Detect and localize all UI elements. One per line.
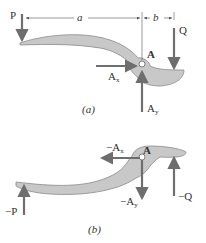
label-b: b: [153, 11, 159, 23]
lever-diagram: P a b Q A Ax Ay (a) −P −Q A −Ax −Ay (b): [0, 0, 206, 243]
label-Q: Q: [179, 24, 187, 36]
label-P: P: [10, 9, 16, 21]
label-negQ: −Q: [178, 190, 192, 202]
caption-a: (a): [82, 103, 95, 116]
figure-b: −P −Q A −Ax −Ay (b): [5, 141, 192, 236]
label-negP: −P: [5, 205, 17, 217]
lever-body-a: [20, 35, 184, 86]
label-Ay: Ay: [147, 102, 159, 116]
label-negAx: −Ax: [106, 141, 124, 155]
label-A: A: [147, 48, 155, 60]
label-negAy: −Ay: [120, 195, 138, 209]
label-Ax: Ax: [108, 70, 120, 84]
label-a: a: [77, 11, 83, 23]
pin-a: [139, 61, 145, 67]
figure-a: P a b Q A Ax Ay (a): [10, 9, 187, 116]
lever-body-b: [16, 146, 186, 194]
label-A-b: A: [143, 144, 151, 156]
caption-b: (b): [88, 223, 101, 236]
